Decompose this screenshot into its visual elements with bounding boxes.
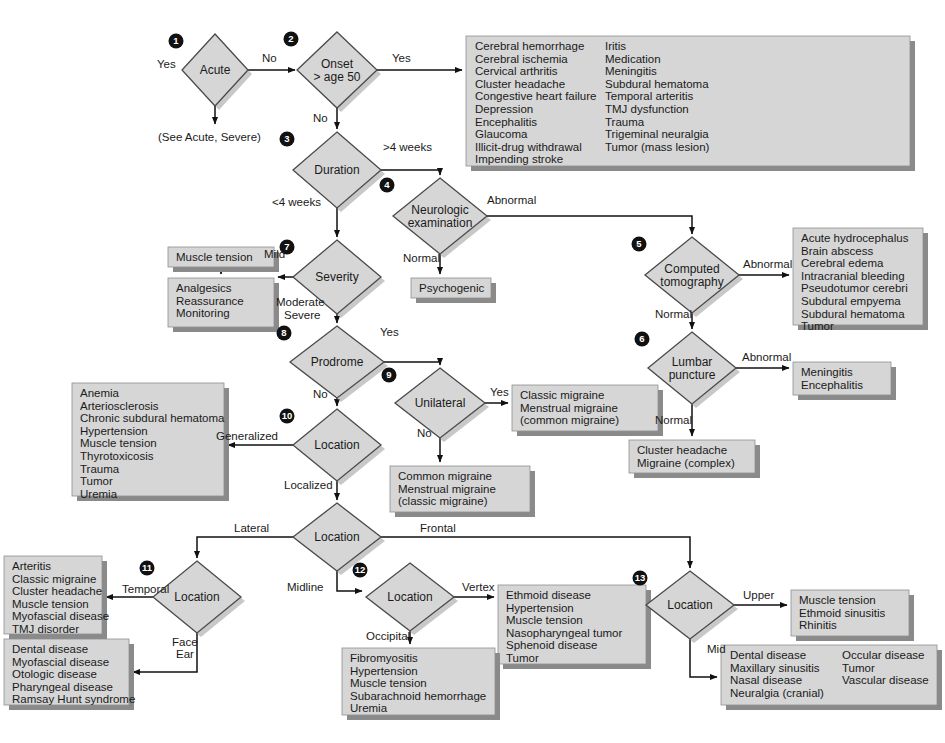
edge-label: Midline xyxy=(287,581,323,593)
edge-label: Upper xyxy=(743,589,774,601)
decision-node[interactable]: Prodrome8 xyxy=(277,326,389,403)
outcome-box: AnemiaArteriosclerosisChronic subdural h… xyxy=(72,383,229,501)
decision-node-label: Location xyxy=(314,530,359,544)
outcome-box-line: Nasopharyngeal tumor xyxy=(506,627,623,639)
step-number-text: 3 xyxy=(284,133,289,144)
edge-label: Severe xyxy=(284,309,320,321)
outcome-box-line: Meningitis xyxy=(801,366,853,378)
outcome-box-line: Occular disease xyxy=(842,649,924,661)
edge-label: Normal xyxy=(403,252,440,264)
outcome-box-line: Cervical arthritis xyxy=(475,65,558,77)
outcome-box-line: Ramsay Hunt syndrome xyxy=(12,693,135,705)
outcome-box-line: Vascular disease xyxy=(842,674,929,686)
outcome-box-line: (classic migraine) xyxy=(398,495,488,507)
outcome-box-line: Nasal disease xyxy=(730,674,802,686)
outcome-box: MeningitisEncephalitis xyxy=(793,362,896,400)
edge-label: Yes xyxy=(392,52,411,64)
outcome-box-line: (common migraine) xyxy=(520,414,619,426)
outcome-box-line: Ethmoid disease xyxy=(506,589,591,601)
outcome-box-line: Uremia xyxy=(350,702,388,714)
outcome-box-line: Encephalitis xyxy=(475,116,537,128)
outcome-box-line: (See Acute, Severe) xyxy=(158,131,261,143)
outcome-box-line: Tumor xyxy=(506,652,539,664)
outcome-box-line: Hypertension xyxy=(506,602,574,614)
outcome-box-line: Cluster headache xyxy=(637,444,727,456)
decision-node[interactable]: Location10 xyxy=(280,409,386,486)
edge-locmid-lateral xyxy=(197,537,293,558)
edge-label: No xyxy=(417,427,432,439)
outcome-box-line: Hypertension xyxy=(80,425,148,437)
step-number-text: 13 xyxy=(635,572,646,583)
edge-label: Lateral xyxy=(234,522,269,534)
edge-label: <4 weeks xyxy=(272,196,321,208)
outcome-box-line: Muscle tension xyxy=(799,594,876,606)
outcome-box: (See Acute, Severe) xyxy=(158,131,261,143)
decision-node[interactable]: Acute1 xyxy=(169,34,253,111)
decision-node-label: Location xyxy=(387,590,432,604)
decision-node[interactable]: Neurologicexamination4 xyxy=(380,178,492,259)
outcome-box-line: Uremia xyxy=(80,488,118,500)
decision-node-label: Acute xyxy=(200,63,231,77)
edge-label: Mild xyxy=(264,248,285,260)
outcome-box-line: Depression xyxy=(475,103,533,115)
decision-node-label: Location xyxy=(667,598,712,612)
decision-node-label: Duration xyxy=(314,163,359,177)
outcome-box-line: Dental disease xyxy=(12,643,88,655)
outcome-box-line: Maxillary sinusitis xyxy=(730,662,820,674)
outcome-box: Cerebral hemorrhageCerebral ischemiaCerv… xyxy=(466,36,915,171)
outcome-box-line: Trauma xyxy=(605,116,645,128)
outcome-box-line: Intracranial bleeding xyxy=(801,270,905,282)
outcome-box-line: Acute hydrocephalus xyxy=(801,232,909,244)
edge-label: Mid xyxy=(707,643,726,655)
edge-label: Abnormal xyxy=(742,351,791,363)
flowchart-svg: (See Acute, Severe)Cerebral hemorrhageCe… xyxy=(0,0,945,743)
decision-node[interactable]: Computedtomography5 xyxy=(632,237,744,318)
outcome-box: Classic migraineMenstrual migraine (comm… xyxy=(512,385,663,436)
outcome-box-line: Subdural empyema xyxy=(801,295,901,307)
decision-node-label: examination xyxy=(408,216,473,230)
edge-locmid-frontal xyxy=(381,537,690,568)
edge-label: No xyxy=(313,112,328,124)
outcome-box-line: Encephalitis xyxy=(801,379,863,391)
outcome-box-line: Iritis xyxy=(605,40,626,52)
edge-prodrome-yes xyxy=(384,362,440,365)
decision-node[interactable]: Unilateral9 xyxy=(382,368,490,443)
outcome-box-line: Tumor xyxy=(80,475,113,487)
decision-node[interactable]: Location xyxy=(293,503,385,575)
outcome-box-line: Muscle tension xyxy=(12,598,89,610)
edge-label: Face xyxy=(172,636,198,648)
outcome-box-line: Common migraine xyxy=(398,470,492,482)
step-number-text: 7 xyxy=(284,241,289,252)
edge-label: Moderate xyxy=(276,296,325,308)
outcome-box-line: Cerebral ischemia xyxy=(475,53,568,65)
decision-node[interactable]: Location12 xyxy=(353,563,459,636)
outcome-box-line: TMJ dysfunction xyxy=(605,103,689,115)
decision-node[interactable]: Location11 xyxy=(140,561,246,638)
decision-node-label: Severity xyxy=(315,270,358,284)
outcome-box: ArteritisClassic migraineCluster headach… xyxy=(4,556,109,639)
edge-label: >4 weeks xyxy=(383,141,432,153)
decision-node[interactable]: Onset> age 502 xyxy=(284,32,382,113)
outcome-box-line: Muscle tension xyxy=(176,251,253,263)
step-number-text: 11 xyxy=(142,562,153,573)
edge-label: Normal xyxy=(655,308,692,320)
outcome-box-line: Arteritis xyxy=(12,560,51,572)
outcome-box: Dental diseaseMyofascial diseaseOtologic… xyxy=(4,639,135,710)
outcome-box-line: Anemia xyxy=(80,387,120,399)
outcome-box: Ethmoid diseaseHypertensionMuscle tensio… xyxy=(498,585,651,669)
outcome-box-line: Muscle tension xyxy=(506,614,583,626)
edge-label: Frontal xyxy=(420,522,456,534)
edge-label: Yes xyxy=(157,58,176,70)
outcome-box: Muscle tension xyxy=(168,247,279,272)
outcome-box-line: Tumor xyxy=(842,662,875,674)
outcome-box-line: Arteriosclerosis xyxy=(80,400,159,412)
outcome-box-line: Myofascial disease xyxy=(12,656,109,668)
outcome-box-line: Tumor xyxy=(801,320,834,332)
step-number-text: 5 xyxy=(636,238,642,249)
outcome-box-line: Psychogenic xyxy=(419,282,484,294)
outcome-box: AnalgesicsReassuranceMonitoring xyxy=(168,278,279,332)
step-number-text: 12 xyxy=(355,564,366,575)
outcome-box-line: Fibromyositis xyxy=(350,652,418,664)
outcome-box-line: Chronic subdural hematoma xyxy=(80,412,225,424)
edge-label: Abnormal xyxy=(743,258,792,270)
